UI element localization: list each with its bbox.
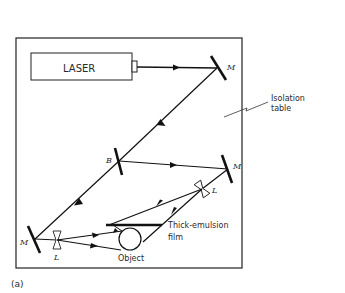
object-beam-lower [57,240,121,250]
table-label-line1: Isolation [271,94,305,103]
beam-splitter-to-mirror-left [35,161,119,239]
lens-left-label: L [53,253,59,262]
film-label-line1: Thick-emulsion [167,221,228,230]
laser: LASER [31,53,137,80]
beam-splitter-label: B [105,156,112,165]
object-label: Object [118,254,144,263]
panel-label: (a) [11,279,24,289]
table-leader-line [224,102,268,117]
mirror-top-label: M [226,63,236,72]
laser-label: LASER [63,63,95,74]
object-beam-upper [57,231,122,240]
mirror-left-label: M [19,238,29,247]
holography-diagram: LASER M B M L M L Obje [0,0,345,293]
film-label-line2: film [168,233,183,242]
laser-aperture [132,61,137,72]
object [119,228,141,250]
table-label-line2: table [271,104,291,113]
mirror-right-label: M [232,162,242,171]
beam-mirror-to-splitter [119,68,217,161]
lens-right-label: L [211,186,217,195]
reference-beam-upper [109,189,202,225]
